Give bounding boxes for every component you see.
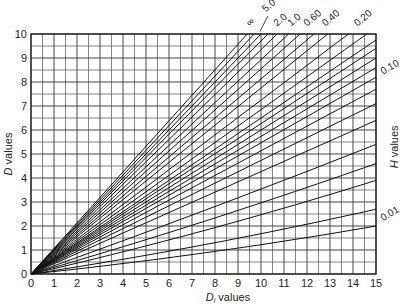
- curve-label: 0.01: [378, 203, 401, 222]
- y-tick-label: 0: [21, 268, 27, 280]
- x-tick-label: 5: [143, 277, 149, 289]
- y-tick-label: 3: [21, 196, 27, 208]
- curve-label: 0.40: [320, 7, 342, 28]
- curve-label: 0.20: [352, 7, 374, 28]
- x-tick-label: 0: [28, 277, 34, 289]
- x-tick-label: 12: [301, 277, 313, 289]
- chart: 0123456789101112131415012345678910Di val…: [0, 0, 409, 304]
- x-tick-label: 13: [324, 277, 336, 289]
- x-tick-label: 7: [189, 277, 195, 289]
- x-tick-label: 2: [74, 277, 80, 289]
- y-tick-label: 7: [21, 100, 27, 112]
- y-tick-label: 4: [21, 172, 27, 184]
- y-tick-label: 5: [21, 148, 27, 160]
- curve-label: 0.10: [378, 57, 401, 76]
- x-axis-label: Di values: [206, 291, 251, 304]
- y-tick-label: 2: [21, 220, 27, 232]
- y-tick-label: 6: [21, 124, 27, 136]
- x-tick-label: 14: [347, 277, 359, 289]
- x-tick-label: 6: [166, 277, 172, 289]
- y-tick-label: 9: [21, 52, 27, 64]
- y-axis-label: D values: [2, 132, 14, 175]
- x-tick-label: 1: [51, 277, 57, 289]
- y-tick-label: 1: [21, 244, 27, 256]
- curve-label: ∞: [244, 15, 257, 28]
- curve-label: 5.0: [260, 0, 278, 14]
- x-tick-label: 11: [278, 277, 289, 289]
- curve-label: 0.60: [301, 7, 323, 28]
- y-tick-label: 8: [21, 76, 27, 88]
- x-tick-label: 4: [120, 277, 126, 289]
- curve-label-leader: [260, 16, 268, 32]
- x-tick-label: 10: [255, 277, 267, 289]
- x-tick-label: 15: [370, 277, 382, 289]
- y-tick-label: 10: [15, 28, 27, 40]
- right-axis-label: H values: [388, 125, 400, 168]
- x-tick-label: 9: [235, 277, 241, 289]
- x-tick-label: 8: [212, 277, 218, 289]
- x-tick-label: 3: [97, 277, 103, 289]
